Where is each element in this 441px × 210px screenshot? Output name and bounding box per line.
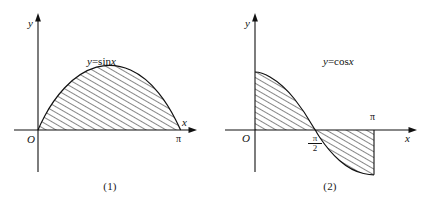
panel-2-caption: (2) xyxy=(220,180,440,192)
sine-curve-label-eq: =sin xyxy=(92,55,111,67)
sine-shaded-area xyxy=(30,55,195,135)
panel-sine-chart: y x O π y=sinx (1) xyxy=(0,0,220,210)
cosine-curve-label-var: x xyxy=(349,55,354,67)
sine-curve-label: y=sinx xyxy=(87,56,116,67)
cosine-curve-label: y=cosx xyxy=(323,56,354,67)
figure-root: y x O π y=sinx (1) xyxy=(0,0,441,210)
panel-cosine-chart: y x O π π 2 y=cosx (2) xyxy=(220,0,440,210)
x-tick-label-pi: π xyxy=(176,134,181,144)
half-pi-denominator: 2 xyxy=(308,144,322,153)
y-axis xyxy=(35,13,41,172)
sine-curve-label-var: x xyxy=(111,55,116,67)
x-tick-label-half-pi: π 2 xyxy=(308,134,322,154)
origin-label: O xyxy=(27,134,35,145)
origin-label: O xyxy=(242,133,250,144)
cosine-shaded-area-positive xyxy=(250,65,325,135)
x-axis-label: x xyxy=(405,133,410,144)
y-axis-label: y xyxy=(28,18,33,29)
cosine-plot-svg xyxy=(220,0,441,180)
sine-plot-svg xyxy=(0,0,220,180)
y-axis-label: y xyxy=(245,18,250,29)
x-axis-label: x xyxy=(182,117,187,128)
panel-1-caption: (1) xyxy=(0,180,220,192)
cosine-curve-label-eq: =cos xyxy=(328,55,349,67)
x-tick-label-pi: π xyxy=(370,112,375,122)
